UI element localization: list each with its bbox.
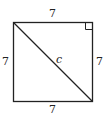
bottom-side-label: 7 [49, 104, 56, 115]
diagonal-line [14, 23, 93, 102]
right-side-label: 7 [96, 56, 103, 67]
diagonal-label: c [56, 54, 62, 65]
top-side-label: 7 [49, 8, 56, 19]
left-side-label: 7 [2, 56, 9, 67]
right-angle-marker [86, 23, 93, 30]
square-diagram: 7 7 7 7 c [0, 0, 103, 120]
